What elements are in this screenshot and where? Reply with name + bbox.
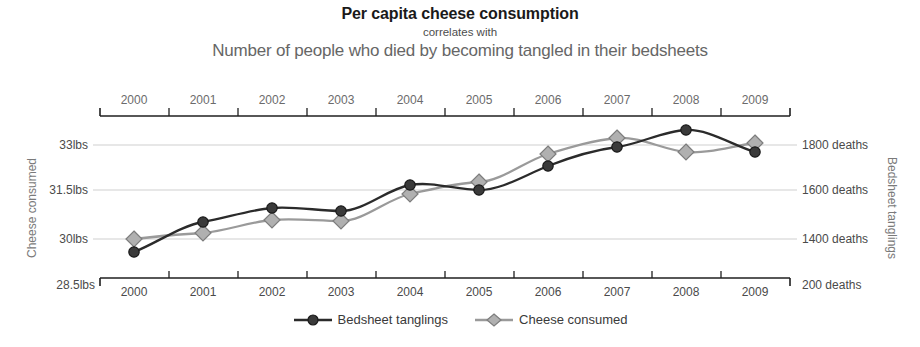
left-tick-marks [93, 145, 100, 239]
bottom-axis [100, 271, 790, 286]
chart-page: Per capita cheese consumption correlates… [0, 0, 920, 347]
right-axis-title: Bedsheet tanglings [885, 157, 899, 259]
left-tick-30lbs: 30lbs [59, 232, 88, 246]
legend-item-cheese-consumed[interactable]: Cheese consumed [474, 312, 627, 327]
legend-item-bedsheet-tanglings[interactable]: Bedsheet tanglings [293, 312, 449, 327]
bottom-year-2004: 2004 [397, 285, 424, 299]
legend-label-bedsheet-tanglings: Bedsheet tanglings [338, 312, 449, 327]
top-year-2002: 2002 [259, 93, 286, 107]
left-tick-33lbs: 33lbs [59, 138, 88, 152]
left-axis-title: Cheese consumed [25, 158, 39, 258]
bottom-year-2000: 2000 [121, 285, 148, 299]
top-year-2006: 2006 [535, 93, 562, 107]
top-year-2009: 2009 [742, 93, 769, 107]
chart-area: 2000 2001 2002 2003 2004 2005 2006 2007 … [0, 0, 920, 347]
bottom-axis-labels: 2000 2001 2002 2003 2004 2005 2006 2007 … [121, 285, 769, 299]
right-tick-200-deaths: 200 deaths [802, 278, 861, 292]
right-tick-marks [790, 145, 797, 239]
top-axis-labels: 2000 2001 2002 2003 2004 2005 2006 2007 … [121, 93, 769, 107]
right-tick-1600-deaths: 1600 deaths [802, 183, 868, 197]
top-year-2003: 2003 [328, 93, 355, 107]
legend-label-cheese-consumed: Cheese consumed [519, 312, 627, 327]
bottom-year-2008: 2008 [673, 285, 700, 299]
right-tick-1800-deaths: 1800 deaths [802, 138, 868, 152]
top-year-2004: 2004 [397, 93, 424, 107]
series-cheese-consumed [126, 130, 763, 247]
left-tick-31-5lbs: 31.5lbs [49, 183, 88, 197]
chart-svg: 2000 2001 2002 2003 2004 2005 2006 2007 … [0, 0, 920, 347]
bottom-year-2005: 2005 [466, 285, 493, 299]
top-year-2000: 2000 [121, 93, 148, 107]
top-year-2007: 2007 [604, 93, 631, 107]
bottom-year-2001: 2001 [190, 285, 217, 299]
right-tick-1400-deaths: 1400 deaths [802, 232, 868, 246]
bottom-year-2002: 2002 [259, 285, 286, 299]
circle-marker-icon [293, 313, 333, 327]
chart-legend: Bedsheet tanglings Cheese consumed [0, 312, 920, 327]
top-year-2008: 2008 [673, 93, 700, 107]
left-axis-ticks: 33lbs 31.5lbs 30lbs 28.5lbs [49, 138, 95, 292]
diamond-marker-icon [474, 313, 514, 327]
bottom-year-2007: 2007 [604, 285, 631, 299]
bottom-year-2003: 2003 [328, 285, 355, 299]
top-axis [100, 108, 790, 116]
right-axis-ticks: 1800 deaths 1600 deaths 1400 deaths 200 … [802, 138, 868, 292]
top-year-2001: 2001 [190, 93, 217, 107]
bottom-year-2006: 2006 [535, 285, 562, 299]
left-tick-28-5lbs: 28.5lbs [56, 278, 95, 292]
top-year-2005: 2005 [466, 93, 493, 107]
bottom-year-2009: 2009 [742, 285, 769, 299]
